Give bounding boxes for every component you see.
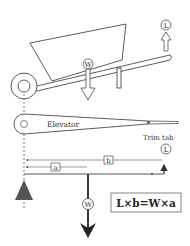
elevator-label: Elevator [47, 120, 80, 129]
lever-weight-label: W [84, 201, 92, 209]
lever-lift-label: L [164, 146, 169, 154]
lift-arrow-hollow: L [161, 20, 171, 51]
formula-box: L×b=W×a [111, 193, 181, 212]
lever-diagram: W L Elevator Trim tab L b a [0, 0, 190, 246]
wheelbarrow-leg [117, 68, 121, 88]
elevator-hinge [21, 121, 28, 128]
elevator-shape [14, 114, 148, 134]
lift-symbol-label: L [164, 22, 169, 30]
elevator [14, 114, 178, 134]
lever-model: L b a W [15, 144, 171, 238]
trim-tab-shape [148, 121, 178, 124]
formula-text: L×b=W×a [116, 197, 176, 209]
fulcrum-triangle [15, 180, 33, 200]
distance-b-label: b [106, 157, 111, 165]
distance-a-label: a [53, 164, 57, 172]
wheel-hub [18, 80, 30, 92]
weight-symbol-label: W [84, 61, 92, 69]
trim-tab-label: Trim tab [143, 134, 174, 142]
